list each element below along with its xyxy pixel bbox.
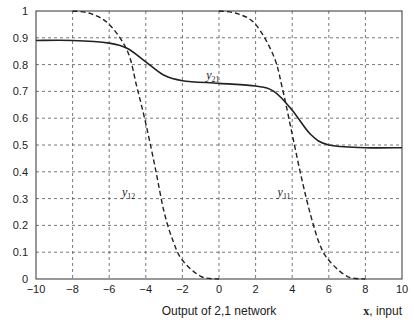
x-tick-label: 8: [362, 283, 368, 295]
y-tick-label: 0: [22, 273, 28, 285]
label-y21: y21: [205, 68, 219, 84]
x-tick-label: 6: [326, 283, 332, 295]
y-tick-label: 0.9: [13, 32, 28, 44]
x-tick-label: 0: [216, 283, 222, 295]
label-y12: y12: [121, 185, 135, 201]
x-tick-label: 2: [253, 283, 259, 295]
x-tick-label: 10: [396, 283, 408, 295]
y-tick-label: 0.5: [13, 139, 28, 151]
x-tick-label: −2: [176, 283, 189, 295]
label-y11: y11: [277, 185, 291, 201]
x-tick-label: −6: [103, 283, 116, 295]
x-axis-label: Output of 2,1 network: [162, 304, 278, 318]
grid-lines: [36, 11, 402, 279]
x-tick-label: −8: [66, 283, 79, 295]
y-tick-label: 1: [22, 5, 28, 17]
y-tick-label: 0.8: [13, 59, 28, 71]
y-tick-label: 0.2: [13, 219, 28, 231]
y-tick-label: 0.1: [13, 246, 28, 258]
tick-labels: −10−8−6−4−2024681000.10.20.30.40.50.60.7…: [13, 5, 408, 295]
x-var-suffix: , input: [369, 304, 402, 318]
x-tick-label: −4: [140, 283, 153, 295]
x-tick-label: 4: [289, 283, 295, 295]
y-tick-label: 0.7: [13, 85, 28, 97]
chart: −10−8−6−4−2024681000.10.20.30.40.50.60.7…: [0, 0, 414, 331]
y-tick-label: 0.6: [13, 112, 28, 124]
y-tick-label: 0.3: [13, 193, 28, 205]
x-axis-right-label: x, input: [363, 304, 402, 318]
x-tick-label: −10: [27, 283, 46, 295]
y-tick-label: 0.4: [13, 166, 28, 178]
